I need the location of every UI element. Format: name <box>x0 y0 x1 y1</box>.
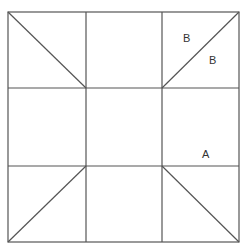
diagonal-bottom-right <box>162 166 239 242</box>
diagonal-top-left <box>8 12 86 88</box>
quilt-block-diagram: B B A <box>0 0 244 249</box>
label-b-lower: B <box>209 54 216 66</box>
diagonal-top-right <box>162 12 239 88</box>
label-b-upper: B <box>183 32 190 44</box>
label-a: A <box>202 148 210 160</box>
diagonal-bottom-left <box>8 166 86 242</box>
